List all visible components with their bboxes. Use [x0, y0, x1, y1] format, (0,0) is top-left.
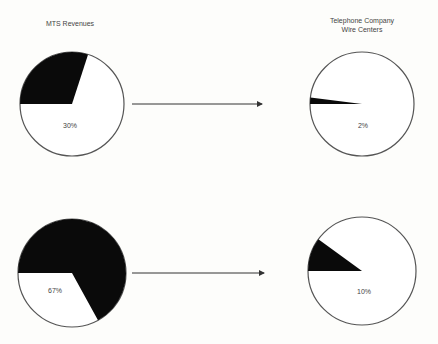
- pie-top-left: 30%: [20, 52, 124, 156]
- pie-bottom-left: 67%: [18, 219, 126, 327]
- pie-percent-label: 2%: [358, 122, 368, 129]
- pie-percent-label: 67%: [48, 287, 62, 294]
- pie-top-right: 2%: [310, 52, 414, 156]
- pie-chart-area: 30%2%67%10%: [0, 0, 438, 344]
- arrows-group: [132, 104, 264, 273]
- pies-group: 30%2%67%10%: [18, 52, 416, 327]
- pie-percent-label: 10%: [357, 288, 371, 295]
- pie-percent-label: 30%: [63, 122, 77, 129]
- pie-bottom-right: 10%: [308, 217, 416, 325]
